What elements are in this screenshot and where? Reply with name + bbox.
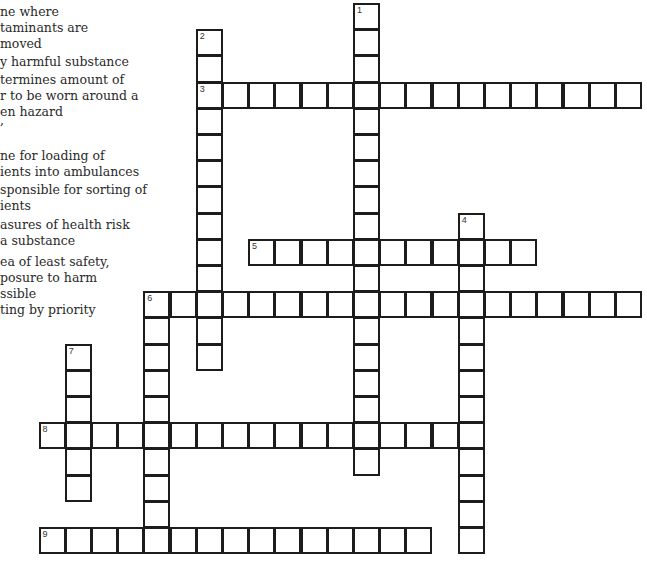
- crossword-cell[interactable]: 4: [458, 213, 485, 240]
- crossword-cell[interactable]: [353, 239, 380, 266]
- crossword-cell[interactable]: [353, 29, 380, 56]
- crossword-cell[interactable]: [563, 291, 590, 318]
- crossword-cell[interactable]: [143, 422, 170, 449]
- crossword-cell[interactable]: [458, 239, 485, 266]
- crossword-cell[interactable]: [65, 422, 92, 449]
- crossword-cell[interactable]: [484, 239, 511, 266]
- crossword-cell[interactable]: [301, 291, 328, 318]
- crossword-cell[interactable]: [222, 291, 249, 318]
- crossword-cell[interactable]: [353, 396, 380, 423]
- crossword-cell[interactable]: [170, 527, 197, 554]
- crossword-cell[interactable]: [91, 422, 118, 449]
- crossword-cell[interactable]: [274, 82, 301, 109]
- crossword-cell[interactable]: [589, 82, 616, 109]
- crossword-cell[interactable]: 7: [65, 344, 92, 371]
- crossword-cell[interactable]: [143, 527, 170, 554]
- crossword-cell[interactable]: [196, 265, 223, 292]
- crossword-cell[interactable]: [327, 82, 354, 109]
- crossword-cell[interactable]: [353, 448, 380, 475]
- crossword-cell[interactable]: [458, 396, 485, 423]
- crossword-cell[interactable]: [248, 422, 275, 449]
- crossword-cell[interactable]: [196, 422, 223, 449]
- crossword-cell[interactable]: [65, 448, 92, 475]
- crossword-cell[interactable]: [405, 422, 432, 449]
- crossword-cell[interactable]: [458, 265, 485, 292]
- crossword-cell[interactable]: [327, 239, 354, 266]
- crossword-cell[interactable]: 3: [196, 82, 223, 109]
- crossword-cell[interactable]: [143, 370, 170, 397]
- crossword-cell[interactable]: [196, 186, 223, 213]
- crossword-cell[interactable]: [510, 82, 537, 109]
- crossword-cell[interactable]: [432, 239, 459, 266]
- crossword-cell[interactable]: [353, 422, 380, 449]
- crossword-cell[interactable]: [510, 239, 537, 266]
- crossword-cell[interactable]: [458, 527, 485, 554]
- crossword-cell[interactable]: [353, 55, 380, 82]
- crossword-cell[interactable]: [353, 160, 380, 187]
- crossword-cell[interactable]: 9: [39, 527, 66, 554]
- crossword-cell[interactable]: [379, 239, 406, 266]
- crossword-cell[interactable]: [301, 422, 328, 449]
- crossword-cell[interactable]: [405, 239, 432, 266]
- crossword-cell[interactable]: [170, 422, 197, 449]
- crossword-cell[interactable]: [458, 501, 485, 528]
- crossword-cell[interactable]: [379, 82, 406, 109]
- crossword-cell[interactable]: 1: [353, 3, 380, 30]
- crossword-cell[interactable]: [353, 527, 380, 554]
- crossword-cell[interactable]: [143, 475, 170, 502]
- crossword-cell[interactable]: [432, 291, 459, 318]
- crossword-cell[interactable]: [196, 317, 223, 344]
- crossword-cell[interactable]: [196, 55, 223, 82]
- crossword-cell[interactable]: [458, 422, 485, 449]
- crossword-cell[interactable]: [458, 370, 485, 397]
- crossword-cell[interactable]: [196, 160, 223, 187]
- crossword-cell[interactable]: [432, 82, 459, 109]
- crossword-cell[interactable]: [274, 239, 301, 266]
- crossword-cell[interactable]: [353, 82, 380, 109]
- crossword-cell[interactable]: [327, 291, 354, 318]
- crossword-cell[interactable]: 8: [39, 422, 66, 449]
- crossword-cell[interactable]: [143, 396, 170, 423]
- crossword-cell[interactable]: [353, 186, 380, 213]
- crossword-cell[interactable]: [117, 422, 144, 449]
- crossword-cell[interactable]: 6: [143, 291, 170, 318]
- crossword-cell[interactable]: [274, 422, 301, 449]
- crossword-cell[interactable]: [222, 527, 249, 554]
- crossword-cell[interactable]: [405, 82, 432, 109]
- crossword-cell[interactable]: [510, 291, 537, 318]
- crossword-cell[interactable]: [353, 213, 380, 240]
- crossword-cell[interactable]: [563, 82, 590, 109]
- crossword-cell[interactable]: [196, 291, 223, 318]
- crossword-cell[interactable]: 5: [248, 239, 275, 266]
- crossword-cell[interactable]: [274, 527, 301, 554]
- crossword-cell[interactable]: [196, 213, 223, 240]
- crossword-cell[interactable]: [379, 291, 406, 318]
- crossword-cell[interactable]: [458, 475, 485, 502]
- crossword-cell[interactable]: [222, 422, 249, 449]
- crossword-cell[interactable]: [353, 291, 380, 318]
- crossword-cell[interactable]: [327, 527, 354, 554]
- crossword-cell[interactable]: [353, 344, 380, 371]
- crossword-cell[interactable]: [353, 108, 380, 135]
- crossword-cell[interactable]: [327, 422, 354, 449]
- crossword-cell[interactable]: [65, 396, 92, 423]
- crossword-cell[interactable]: [615, 82, 642, 109]
- crossword-cell[interactable]: [143, 317, 170, 344]
- crossword-cell[interactable]: [196, 108, 223, 135]
- crossword-cell[interactable]: [248, 82, 275, 109]
- crossword-cell[interactable]: [458, 82, 485, 109]
- crossword-cell[interactable]: [196, 134, 223, 161]
- crossword-cell[interactable]: [432, 422, 459, 449]
- crossword-cell[interactable]: [143, 448, 170, 475]
- crossword-cell[interactable]: [248, 291, 275, 318]
- crossword-cell[interactable]: [536, 291, 563, 318]
- crossword-cell[interactable]: [248, 527, 275, 554]
- crossword-cell[interactable]: [143, 344, 170, 371]
- crossword-cell[interactable]: [484, 82, 511, 109]
- crossword-cell[interactable]: [143, 501, 170, 528]
- crossword-cell[interactable]: [65, 370, 92, 397]
- crossword-cell[interactable]: [484, 291, 511, 318]
- crossword-cell[interactable]: 2: [196, 29, 223, 56]
- crossword-cell[interactable]: [353, 317, 380, 344]
- crossword-cell[interactable]: [458, 448, 485, 475]
